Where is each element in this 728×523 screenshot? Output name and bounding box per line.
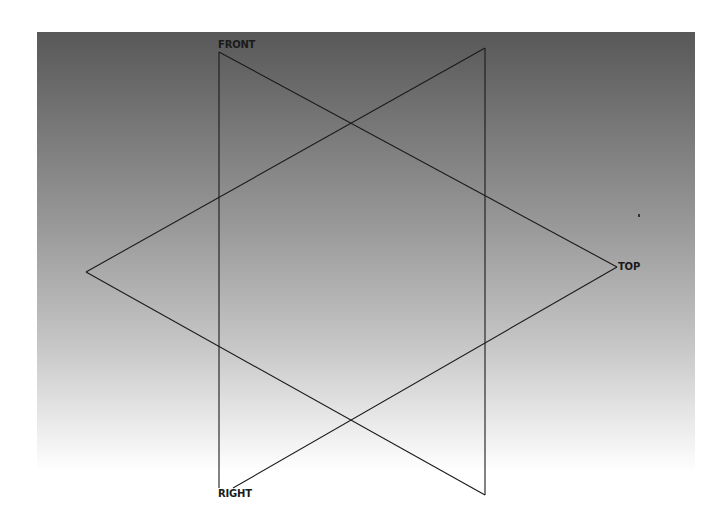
edge-top-to-right <box>233 267 617 488</box>
label-front[interactable]: FRONT <box>218 40 255 50</box>
edge-front-to-top <box>219 52 617 267</box>
label-top[interactable]: TOP <box>618 262 640 272</box>
label-right[interactable]: RIGHT <box>218 489 252 499</box>
artifact-dot <box>638 214 640 217</box>
edge-left-to-back-bottom <box>86 272 485 495</box>
edge-back-to-left <box>86 48 485 272</box>
